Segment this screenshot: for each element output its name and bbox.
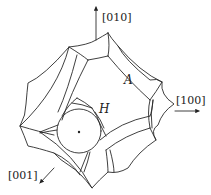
axis-001: [001] xyxy=(8,168,54,183)
channel-a: A xyxy=(108,46,162,140)
outer-boundary xyxy=(20,33,174,188)
axis-010: [010] xyxy=(96,7,132,40)
axis-100: [100] xyxy=(175,94,206,111)
arrow-down-left-icon xyxy=(40,168,54,183)
channel-label-a: A xyxy=(123,73,133,87)
axis-label-010: [010] xyxy=(102,11,132,24)
hole-label-h: H xyxy=(98,102,110,116)
crystal-structure-diagram: [010] [100] [001] A xyxy=(0,0,211,195)
hole-center-dot xyxy=(78,131,80,133)
axis-label-100: [100] xyxy=(176,94,206,107)
hole-h: H xyxy=(57,98,110,172)
axis-label-001: [001] xyxy=(8,169,38,182)
